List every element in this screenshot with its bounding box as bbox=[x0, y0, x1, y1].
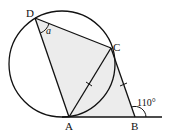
label-B: B bbox=[131, 120, 138, 132]
label-A: A bbox=[65, 120, 73, 132]
angle-label-a: a bbox=[46, 25, 51, 36]
label-C: C bbox=[113, 41, 120, 53]
geometry-diagram: D C A B a 110° bbox=[0, 0, 169, 133]
label-D: D bbox=[26, 7, 34, 19]
angle-label-110: 110° bbox=[137, 97, 156, 108]
